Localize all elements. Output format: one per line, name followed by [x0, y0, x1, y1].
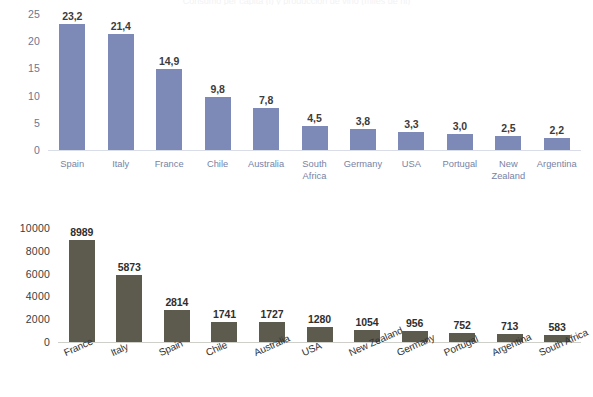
bar — [495, 136, 521, 150]
y-axis-tick-label: 20 — [14, 35, 40, 47]
bar — [69, 240, 95, 342]
chart-top-consumption: Consumo per capita (l) y produccion de v… — [0, 0, 593, 200]
plot-area-top: 051015202523,2Spain21,4Italy14,9France9,… — [48, 14, 581, 150]
bar-value-label: 21,4 — [111, 20, 131, 32]
bar — [164, 310, 190, 342]
bar — [205, 97, 231, 150]
bar — [156, 69, 182, 150]
bar-value-label: 3,8 — [356, 115, 370, 127]
bar — [59, 24, 85, 150]
chart-title-faint: Consumo per capita (l) y produccion de v… — [0, 0, 593, 5]
bar-value-label: 1741 — [213, 308, 236, 320]
y-axis-tick-label: 10000 — [12, 222, 50, 234]
y-axis-tick-label: 6000 — [12, 268, 50, 280]
bar-value-label: 583 — [549, 321, 566, 333]
bar-value-label: 2,5 — [501, 122, 515, 134]
y-axis-tick-label: 15 — [14, 62, 40, 74]
y-axis-tick-label: 10 — [14, 90, 40, 102]
bar-value-label: 2814 — [165, 296, 188, 308]
bar-value-label: 3,0 — [453, 120, 467, 132]
bar-value-label: 713 — [501, 320, 518, 332]
y-axis-tick-label: 25 — [14, 8, 40, 20]
chart-bottom-production: 02000400060008000100008989France5873Ital… — [0, 200, 593, 397]
y-axis-tick-label: 0 — [14, 144, 40, 156]
bar — [302, 126, 328, 150]
bar-value-label: 8989 — [70, 226, 93, 238]
y-axis-tick-label: 0 — [12, 336, 50, 348]
bar-value-label: 1727 — [260, 308, 283, 320]
bar — [544, 138, 570, 150]
x-axis-category-text: Italy — [109, 341, 130, 358]
y-axis-tick-label: 2000 — [12, 313, 50, 325]
bar-value-label: 1280 — [308, 313, 331, 325]
bar-value-label: 2,2 — [550, 124, 564, 136]
bar-value-label: 5873 — [118, 261, 141, 273]
bar — [398, 132, 424, 150]
y-axis-tick-label: 5 — [14, 117, 40, 129]
bar — [108, 34, 134, 150]
bar-value-label: 23,2 — [62, 10, 82, 22]
bar — [350, 129, 376, 150]
bar — [116, 275, 142, 342]
x-axis-category-label: Argentina — [528, 159, 586, 171]
plot-area-bottom: 02000400060008000100008989France5873Ital… — [58, 228, 581, 342]
x-axis-baseline — [48, 150, 581, 151]
bar — [253, 108, 279, 150]
bar-value-label: 752 — [454, 319, 471, 331]
bar-value-label: 1054 — [356, 316, 379, 328]
bar-value-label: 4,5 — [307, 112, 321, 124]
bar-value-label: 7,8 — [259, 94, 273, 106]
bar-value-label: 3,3 — [404, 118, 418, 130]
y-axis-tick-label: 4000 — [12, 290, 50, 302]
bar-value-label: 14,9 — [159, 55, 179, 67]
y-axis-tick-label: 8000 — [12, 245, 50, 257]
bar — [307, 327, 333, 342]
bar-value-label: 9,8 — [210, 83, 224, 95]
x-axis-category-text: Spain — [157, 338, 184, 358]
bar — [447, 134, 473, 150]
bar-value-label: 956 — [406, 317, 423, 329]
